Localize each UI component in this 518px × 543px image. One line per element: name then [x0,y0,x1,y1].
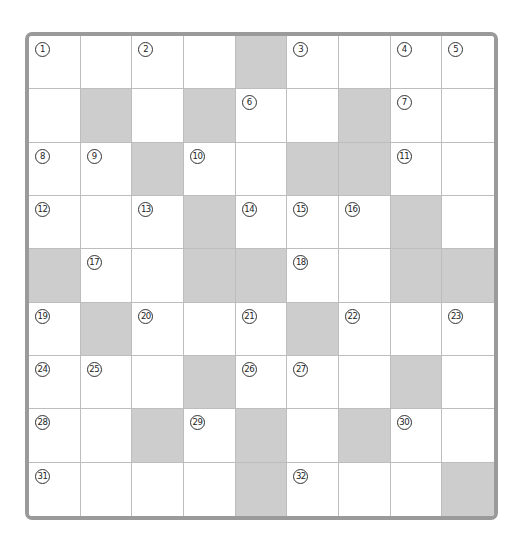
answer-cell[interactable]: 20 [132,303,184,356]
answer-cell[interactable] [132,249,184,302]
answer-cell[interactable] [184,463,236,516]
answer-cell[interactable]: 16 [339,196,391,249]
clue-number: 32 [293,469,308,484]
answer-cell[interactable] [184,36,236,89]
clue-number: 25 [87,362,102,377]
answer-cell[interactable]: 28 [29,409,81,462]
answer-cell[interactable]: 18 [287,249,339,302]
clue-number: 19 [35,309,50,324]
answer-cell[interactable] [287,409,339,462]
answer-cell[interactable]: 13 [132,196,184,249]
answer-cell[interactable] [81,409,133,462]
clue-number: 14 [242,202,257,217]
answer-cell[interactable]: 32 [287,463,339,516]
clue-number: 29 [190,415,205,430]
answer-cell[interactable] [236,143,288,196]
clue-number: 7 [397,95,412,110]
clue-number: 20 [138,309,153,324]
answer-cell[interactable]: 8 [29,143,81,196]
answer-cell[interactable]: 3 [287,36,339,89]
block-cell [236,249,288,302]
answer-cell[interactable]: 17 [81,249,133,302]
answer-cell[interactable]: 26 [236,356,288,409]
clue-number: 31 [35,469,50,484]
block-cell [339,89,391,142]
answer-cell[interactable] [132,89,184,142]
answer-cell[interactable]: 15 [287,196,339,249]
clue-number: 4 [397,42,412,57]
answer-cell[interactable]: 7 [391,89,443,142]
answer-cell[interactable]: 5 [442,36,494,89]
answer-cell[interactable]: 9 [81,143,133,196]
answer-cell[interactable] [442,356,494,409]
answer-cell[interactable] [339,249,391,302]
block-cell [81,89,133,142]
block-cell [236,36,288,89]
answer-cell[interactable] [132,356,184,409]
block-cell [287,143,339,196]
answer-cell[interactable] [81,463,133,516]
answer-cell[interactable]: 2 [132,36,184,89]
clue-number: 30 [397,415,412,430]
answer-cell[interactable] [184,303,236,356]
clue-number: 13 [138,202,153,217]
answer-cell[interactable] [442,196,494,249]
clue-number: 24 [35,362,50,377]
block-cell [391,356,443,409]
answer-cell[interactable]: 24 [29,356,81,409]
answer-cell[interactable]: 31 [29,463,81,516]
answer-cell[interactable]: 29 [184,409,236,462]
clue-number: 11 [397,149,412,164]
answer-cell[interactable]: 27 [287,356,339,409]
answer-cell[interactable] [339,463,391,516]
block-cell [184,89,236,142]
answer-cell[interactable] [287,89,339,142]
answer-cell[interactable] [132,463,184,516]
answer-cell[interactable] [339,356,391,409]
answer-cell[interactable]: 30 [391,409,443,462]
block-cell [132,409,184,462]
block-cell [442,249,494,302]
block-cell [391,196,443,249]
block-cell [339,409,391,462]
block-cell [184,356,236,409]
clue-number: 3 [293,42,308,57]
block-cell [287,303,339,356]
clue-number: 9 [87,149,102,164]
clue-number: 27 [293,362,308,377]
answer-cell[interactable]: 12 [29,196,81,249]
clue-number: 12 [35,202,50,217]
answer-cell[interactable] [81,196,133,249]
answer-cell[interactable]: 6 [236,89,288,142]
answer-cell[interactable] [442,143,494,196]
answer-cell[interactable] [81,36,133,89]
answer-cell[interactable]: 14 [236,196,288,249]
clue-number: 5 [448,42,463,57]
block-cell [339,143,391,196]
answer-cell[interactable]: 11 [391,143,443,196]
answer-cell[interactable] [391,463,443,516]
answer-cell[interactable]: 19 [29,303,81,356]
clue-number: 18 [293,255,308,270]
clue-number: 26 [242,362,257,377]
answer-cell[interactable]: 1 [29,36,81,89]
answer-cell[interactable] [442,89,494,142]
answer-cell[interactable] [391,303,443,356]
answer-cell[interactable]: 22 [339,303,391,356]
block-cell [184,249,236,302]
answer-cell[interactable]: 10 [184,143,236,196]
answer-cell[interactable] [339,36,391,89]
block-cell [236,409,288,462]
answer-cell[interactable] [442,409,494,462]
clue-number: 8 [35,149,50,164]
answer-cell[interactable]: 4 [391,36,443,89]
answer-cell[interactable]: 21 [236,303,288,356]
clue-number: 16 [345,202,360,217]
clue-number: 28 [35,415,50,430]
answer-cell[interactable]: 23 [442,303,494,356]
block-cell [132,143,184,196]
crossword-board: 1234567891011121314151617181920212223242… [25,32,498,520]
block-cell [391,249,443,302]
answer-cell[interactable]: 25 [81,356,133,409]
answer-cell[interactable] [29,89,81,142]
